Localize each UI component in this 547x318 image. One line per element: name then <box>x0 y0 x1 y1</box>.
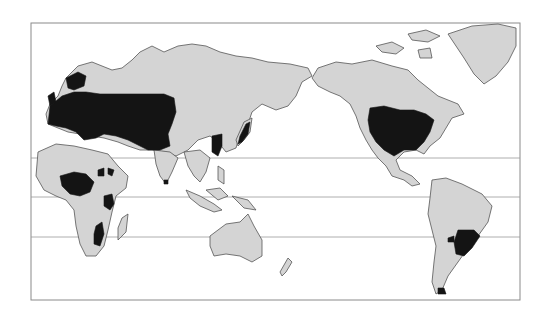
map-svg <box>0 0 547 318</box>
africa <box>36 144 128 256</box>
new-zealand <box>280 258 292 276</box>
australia <box>210 214 262 262</box>
canadian-arctic-islands <box>376 30 440 58</box>
philippines <box>218 166 224 184</box>
highlight-east-china <box>212 134 222 156</box>
madagascar <box>118 214 128 240</box>
highlight-southern-brazil-uruguay <box>454 230 480 256</box>
world-map <box>0 0 547 318</box>
highlight-south-chile <box>438 288 446 294</box>
southeast-asia <box>184 150 210 182</box>
highlight-europe-central-asia <box>48 92 176 150</box>
greenland <box>448 24 516 84</box>
highlight-india-spot <box>164 180 168 184</box>
india <box>154 150 178 184</box>
indonesia <box>186 188 256 212</box>
